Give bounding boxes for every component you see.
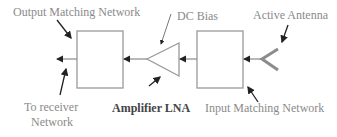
output-matching-label: Output Matching Network xyxy=(13,6,140,19)
output-matching-pointer xyxy=(57,20,71,38)
input-matching-block xyxy=(197,31,243,88)
amplifier-triangle xyxy=(147,43,179,76)
input-matching-label: Input Matching Network xyxy=(205,102,324,115)
input-matching-pointer xyxy=(248,87,258,102)
active-antenna-pointer xyxy=(282,25,288,42)
dc-bias-label: DC Bias xyxy=(177,10,218,23)
amplifier-pointer xyxy=(149,77,160,86)
to-receiver-pointer xyxy=(60,69,66,95)
dc-bias-pointer xyxy=(161,14,171,44)
output-matching-block xyxy=(77,31,123,88)
active-antenna-label: Active Antenna xyxy=(253,9,328,22)
antenna-icon xyxy=(262,49,278,70)
amplifier-label: Amplifier LNA xyxy=(112,102,190,115)
to-receiver-label-line2: Network xyxy=(31,116,73,129)
to-receiver-label-line1: To receiver xyxy=(24,101,78,114)
